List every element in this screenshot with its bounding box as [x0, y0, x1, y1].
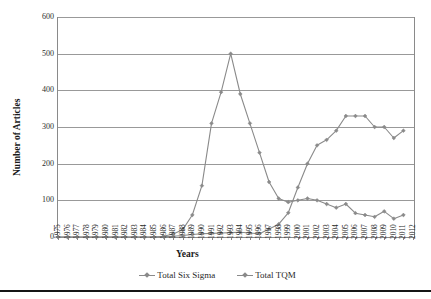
x-tick-label: 2009 — [379, 224, 388, 252]
legend-entry-1[interactable]: Total TQM — [237, 270, 295, 280]
legend-marker-icon — [139, 271, 155, 280]
x-tick-label: 2010 — [389, 224, 398, 252]
x-tick-label: 1998 — [274, 224, 283, 252]
data-point-marker — [296, 186, 300, 190]
legend-label: Total Six Sigma — [157, 270, 215, 280]
data-point-marker — [238, 92, 242, 96]
x-tick-label: 1996 — [254, 224, 263, 252]
y-axis-title: Number of Articles — [9, 72, 25, 202]
x-tick-label: 1979 — [91, 224, 100, 252]
y-tick-label: 600 — [28, 13, 54, 21]
footer-divider — [0, 290, 431, 292]
x-tick-label: 2008 — [370, 224, 379, 252]
data-point-marker — [306, 162, 310, 166]
series-line-0 — [58, 116, 403, 237]
x-tick-label: 2003 — [322, 224, 331, 252]
x-tick-label: 1982 — [120, 224, 129, 252]
data-point-marker — [402, 213, 406, 217]
data-point-marker — [210, 121, 214, 125]
x-tick-label: 1977 — [72, 224, 81, 252]
data-point-marker — [258, 151, 262, 155]
x-tick-label: 1997 — [264, 224, 273, 252]
plot-area — [57, 17, 415, 238]
data-point-marker — [363, 213, 367, 217]
x-tick-label: 1999 — [283, 224, 292, 252]
chart-legend: Total Six SigmaTotal TQM — [105, 268, 330, 282]
legend-entry-0[interactable]: Total Six Sigma — [139, 270, 215, 280]
data-point-marker — [219, 90, 223, 94]
x-tick-label: 2011 — [398, 224, 407, 252]
y-tick-label: 500 — [28, 50, 54, 58]
data-point-marker — [334, 206, 338, 210]
x-tick-label: 1985 — [149, 224, 158, 252]
x-tick-label: 2000 — [293, 224, 302, 252]
data-point-marker — [286, 200, 290, 204]
series-line-1 — [58, 54, 403, 237]
x-tick-label: 1978 — [82, 224, 91, 252]
y-axis-tick-labels: 6005004003002001000 — [26, 0, 54, 299]
y-tick-label: 300 — [28, 123, 54, 131]
x-tick-label: 2002 — [312, 224, 321, 252]
data-point-marker — [306, 197, 310, 201]
y-tick-label: 400 — [28, 86, 54, 94]
data-point-marker — [248, 121, 252, 125]
chart-figure: Number of Articles 6005004003002001000 1… — [0, 0, 431, 299]
series-canvas — [58, 17, 414, 237]
x-tick-label: 1981 — [111, 224, 120, 252]
x-tick-label: 1986 — [159, 224, 168, 252]
x-tick-label: 1987 — [168, 224, 177, 252]
data-point-marker — [296, 198, 300, 202]
y-tick-label: 0 — [28, 233, 54, 241]
data-point-marker — [354, 114, 358, 118]
x-tick-label: 1976 — [63, 224, 72, 252]
y-tick-label: 100 — [28, 196, 54, 204]
data-point-marker — [325, 202, 329, 206]
x-tick-label: 1993 — [226, 224, 235, 252]
x-axis-tick-labels: 1975197619771978197919801981198219831984… — [57, 224, 413, 254]
x-tick-label: 2012 — [408, 224, 417, 252]
y-tick-label: 200 — [28, 160, 54, 168]
x-tick-label: 1988 — [178, 224, 187, 252]
x-tick-label: 2007 — [360, 224, 369, 252]
legend-label: Total TQM — [255, 270, 295, 280]
legend-marker-icon — [237, 271, 253, 280]
x-tick-label: 2001 — [302, 224, 311, 252]
data-point-marker — [315, 198, 319, 202]
data-point-marker — [229, 52, 233, 56]
x-tick-label: 2005 — [341, 224, 350, 252]
x-tick-label: 2004 — [331, 224, 340, 252]
x-tick-label: 1992 — [216, 224, 225, 252]
x-tick-label: 1989 — [187, 224, 196, 252]
x-tick-label: 1991 — [207, 224, 216, 252]
x-tick-label: 1984 — [139, 224, 148, 252]
x-tick-label: 1994 — [235, 224, 244, 252]
x-tick-label: 1995 — [245, 224, 254, 252]
x-tick-label: 1990 — [197, 224, 206, 252]
x-tick-label: 1983 — [130, 224, 139, 252]
x-tick-label: 1980 — [101, 224, 110, 252]
x-tick-label: 1975 — [53, 224, 62, 252]
x-axis-title: Years — [176, 249, 199, 259]
x-tick-label: 2006 — [350, 224, 359, 252]
data-point-marker — [200, 184, 204, 188]
